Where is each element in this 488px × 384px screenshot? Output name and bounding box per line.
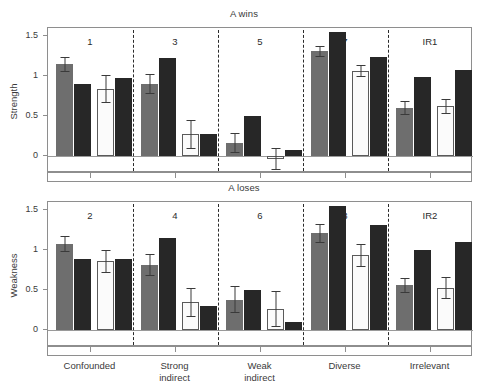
bar-g8-s1	[311, 233, 328, 330]
bar-gir1-s2	[414, 77, 431, 156]
group-divider-3	[303, 30, 304, 171]
group-label-ir1: IR1	[410, 36, 450, 47]
bar-g7-s3	[352, 71, 369, 156]
y-tick-0.5: 0.5	[8, 110, 38, 120]
bar-g5-s2	[244, 116, 261, 156]
errorbar-g2-s3	[97, 250, 114, 273]
bar-gir1-s1	[396, 108, 413, 156]
x-tickmark-4-b	[345, 347, 346, 352]
x-axis-strip-a-loses	[47, 346, 472, 356]
panel-a-wins: A wins Strength 1.5 1 0.5 0 1 3 5 7 IR1	[0, 0, 488, 180]
x-tickmark-4	[345, 173, 346, 178]
bar-g8-s4	[370, 225, 387, 330]
y-tick-1: 1	[8, 70, 38, 80]
errorbar-g8-s1	[311, 224, 328, 243]
panel-title-a-wins: A wins	[0, 8, 488, 19]
errorbar-g4-s1	[141, 254, 158, 276]
errorbar-g6-s1	[226, 286, 243, 313]
group-label-ir2: IR2	[410, 210, 450, 221]
y-tick-1.5: 1.5	[8, 30, 38, 40]
group-divider-1	[133, 30, 134, 171]
errorbar-gir1-s1	[396, 101, 413, 115]
y-tick-0.5-b: 0.5	[8, 284, 38, 294]
errorbar-g3-s3	[182, 120, 199, 149]
errorbar-g7-s1	[311, 46, 328, 57]
x-tickmark-5-b	[430, 347, 431, 352]
bar-g3-s4	[200, 134, 217, 156]
group-divider-4-b	[388, 204, 389, 345]
x-tickmark-2-b	[175, 347, 176, 352]
group-divider-1-b	[133, 204, 134, 345]
x-tickmark-3-b	[260, 347, 261, 352]
bar-g7-s1	[311, 51, 328, 156]
x-label-strong-indirect: Strong indirect	[132, 360, 217, 384]
bar-g2-s2	[74, 259, 91, 330]
errorbar-g7-s3	[352, 65, 369, 77]
x-label-weak-indirect: Weak indirect	[217, 360, 302, 384]
bar-g4-s4	[200, 306, 217, 330]
bar-g1-s4	[115, 78, 132, 156]
bar-g3-s2	[159, 58, 176, 156]
x-label-diverse: Diverse	[302, 360, 387, 372]
x-label-confounded: Confounded	[47, 360, 132, 372]
group-divider-4	[388, 30, 389, 171]
errorbar-g3-s1	[141, 74, 158, 94]
group-label-6: 6	[240, 210, 280, 221]
errorbar-gir1-s3	[437, 99, 454, 114]
panel-title-a-loses: A loses	[0, 182, 488, 193]
bar-g2-s1	[56, 244, 73, 330]
bar-gir1-s4	[455, 70, 472, 156]
plot-area-a-loses: 2 4 6 8 IR2	[47, 201, 472, 346]
y-tick-1.5-b: 1.5	[8, 204, 38, 214]
bar-gir2-s4	[455, 242, 472, 330]
bar-g5-s4	[285, 150, 302, 156]
bar-g4-s2	[159, 238, 176, 330]
group-divider-2	[218, 30, 219, 171]
plot-area-a-wins: 1 3 5 7 IR1	[47, 27, 472, 172]
errorbar-g2-s1	[56, 236, 73, 252]
group-label-5: 5	[240, 36, 280, 47]
group-label-4: 4	[155, 210, 195, 221]
errorbar-g1-s3	[97, 75, 114, 103]
bar-g6-s4	[285, 322, 302, 330]
bar-g1-s2	[74, 84, 91, 156]
bar-g6-s2	[244, 290, 261, 330]
errorbar-g5-s1	[226, 133, 243, 153]
x-tickmark-1	[90, 173, 91, 178]
x-tickmark-5	[430, 173, 431, 178]
bar-g7-s2	[329, 32, 346, 156]
zero-line-b	[48, 330, 473, 331]
y-tick-0-b: 0	[8, 324, 38, 334]
y-tick-0: 0	[8, 150, 38, 160]
y-tick-1-b: 1	[8, 244, 38, 254]
errorbar-gir2-s1	[396, 278, 413, 293]
panel-a-loses: A loses Weakness 1.5 1 0.5 0 2 4 6 8 IR2	[0, 180, 488, 379]
bar-g7-s4	[370, 57, 387, 156]
x-tickmark-3	[260, 173, 261, 178]
group-divider-2-b	[218, 204, 219, 345]
errorbar-g4-s3	[182, 288, 199, 317]
group-label-3: 3	[155, 36, 195, 47]
group-divider-3-b	[303, 204, 304, 345]
errorbar-g8-s3	[352, 244, 369, 267]
zero-line	[48, 156, 473, 157]
bar-g1-s1	[56, 64, 73, 156]
errorbar-g6-s3	[267, 291, 284, 327]
bar-gir2-s2	[414, 250, 431, 330]
errorbar-g5-s3	[267, 148, 284, 170]
y-axis-label-strength: Strength	[8, 72, 19, 132]
bar-g3-s1	[141, 84, 158, 156]
group-label-2: 2	[70, 210, 110, 221]
bar-g8-s2	[329, 206, 346, 330]
x-tickmark-2	[175, 173, 176, 178]
x-tickmark-1-b	[90, 347, 91, 352]
bar-g2-s4	[115, 259, 132, 330]
x-label-irrelevant: Irrelevant	[387, 360, 472, 372]
errorbar-g1-s1	[56, 57, 73, 72]
group-label-1: 1	[70, 36, 110, 47]
errorbar-gir2-s3	[437, 277, 454, 299]
